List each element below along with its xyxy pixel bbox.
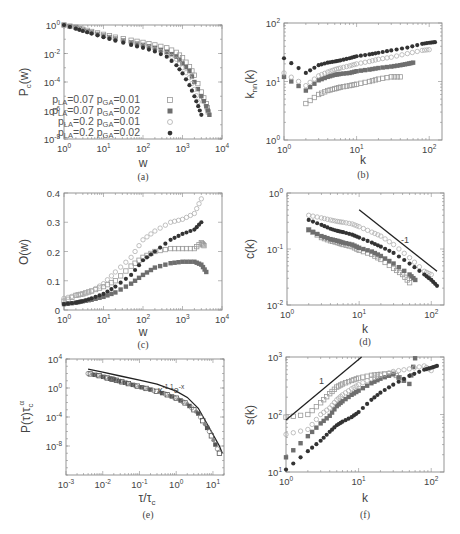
panel-f-ylabel: s(k) <box>243 405 257 425</box>
marker-filled-square <box>310 430 314 434</box>
marker-open-square <box>169 48 173 52</box>
marker-filled-circle <box>176 234 180 238</box>
marker-open-square <box>346 379 350 383</box>
tick-label: 10-2 <box>95 478 112 490</box>
marker-filled-square <box>383 256 387 260</box>
marker-open-circle <box>199 197 203 201</box>
marker-open-circle <box>197 202 201 206</box>
data-points <box>62 197 209 307</box>
marker-open-circle <box>307 213 311 217</box>
marker-filled-circle <box>355 54 359 58</box>
tick-label: 10-2 <box>44 48 61 60</box>
marker-filled-square <box>296 84 300 88</box>
tick-label: 102 <box>136 313 151 325</box>
tick-label: 101 <box>266 76 281 88</box>
marker-open-square <box>321 398 325 402</box>
marker-filled-circle <box>187 83 191 87</box>
marker-open-circle <box>363 60 367 64</box>
marker-filled-circle <box>395 47 399 51</box>
marker-open-circle <box>324 408 328 412</box>
marker-filled-square <box>202 99 206 103</box>
marker-open-circle <box>124 260 128 264</box>
marker-open-circle <box>410 50 414 54</box>
marker-filled-square <box>376 66 380 70</box>
marker-open-square <box>363 80 367 84</box>
marker-open-square <box>312 95 316 99</box>
marker-filled-square <box>365 248 369 252</box>
tick-label: 100 <box>280 308 295 320</box>
marker-open-circle <box>376 57 380 61</box>
marker-filled-circle <box>147 48 151 52</box>
panel-e: 10-310-210-110010110410010-410-8 <box>46 353 224 490</box>
marker-filled-circle <box>119 281 123 285</box>
marker-filled-circle <box>381 50 385 54</box>
marker-filled-circle <box>291 461 295 465</box>
marker-filled-circle <box>199 113 203 117</box>
marker-open-circle <box>312 77 316 81</box>
marker-open-square <box>319 91 323 95</box>
panel-d-ylabel: c(k) <box>243 239 257 259</box>
marker-filled-circle <box>417 269 421 273</box>
marker-filled-circle <box>391 251 395 255</box>
data-points <box>86 369 222 455</box>
marker-open-circle <box>315 215 319 219</box>
marker-filled-square <box>396 375 400 379</box>
marker-open-circle <box>387 240 391 244</box>
marker-filled-square <box>204 270 208 274</box>
marker-filled-square <box>407 382 411 386</box>
marker-open-circle <box>365 378 369 382</box>
marker-open-circle <box>306 427 310 431</box>
tick-label: 10-1 <box>131 478 148 490</box>
marker-open-circle <box>332 400 336 404</box>
marker-open-circle <box>133 249 137 253</box>
marker-open-square <box>359 81 363 85</box>
marker-open-circle <box>163 223 167 227</box>
marker-filled-circle <box>211 438 215 442</box>
marker-filled-square <box>315 232 319 236</box>
marker-filled-square <box>311 230 315 234</box>
marker-open-circle <box>417 265 421 269</box>
marker-filled-square <box>204 104 208 108</box>
marker-filled-square <box>413 278 417 282</box>
panel-c-id: (c) <box>137 339 148 351</box>
marker-open-circle <box>402 251 406 255</box>
marker-open-circle <box>109 274 113 278</box>
panel-e-ylabel: P(τ)τcα <box>17 401 35 433</box>
reference-slope-line <box>286 357 362 420</box>
marker-open-square <box>165 46 169 50</box>
marker-filled-square <box>137 276 141 280</box>
marker-open-circle <box>141 238 145 242</box>
marker-filled-square <box>381 65 385 69</box>
marker-filled-circle <box>412 265 416 269</box>
marker-open-circle <box>296 79 300 83</box>
tick-label: 102 <box>424 475 439 487</box>
panel-b: 100101102100101102 <box>266 17 442 155</box>
marker-open-circle <box>318 412 322 416</box>
marker-filled-square <box>180 260 184 264</box>
marker-filled-square <box>314 425 318 429</box>
marker-filled-circle <box>415 43 419 47</box>
marker-filled-circle <box>322 436 326 440</box>
marker-open-circle <box>328 406 332 410</box>
marker-open-square <box>304 101 308 105</box>
marker-open-square <box>217 451 221 455</box>
tick-label: 104 <box>215 142 230 154</box>
marker-filled-square <box>149 268 153 272</box>
marker-filled-square <box>109 292 113 296</box>
marker-filled-circle <box>389 48 393 52</box>
marker-filled-circle <box>66 302 70 306</box>
marker-open-circle <box>330 403 334 407</box>
marker-filled-square <box>207 113 211 117</box>
marker-filled-circle <box>101 292 105 296</box>
marker-filled-square <box>308 85 312 89</box>
figure-canvas: 10010110210310410010-210-410-610-8 10010… <box>0 0 460 534</box>
marker-filled-circle <box>174 63 178 67</box>
marker-open-circle <box>113 270 117 274</box>
marker-filled-circle <box>311 220 315 224</box>
data-points <box>282 40 437 106</box>
marker-open-circle <box>308 80 312 84</box>
marker-filled-square <box>391 261 395 265</box>
marker-filled-square <box>306 434 310 438</box>
marker-open-square <box>395 75 399 79</box>
tick-label: 104 <box>215 313 230 325</box>
